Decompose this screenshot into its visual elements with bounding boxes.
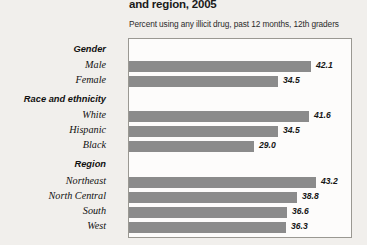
bar: [129, 141, 254, 152]
chart-subtitle: Percent using any illicit drug, past 12 …: [129, 19, 339, 29]
bar-value-label: 34.5: [283, 125, 300, 135]
bar-value-label: 29.0: [259, 140, 276, 150]
bar-value-label: 43.2: [321, 176, 338, 186]
bar: [129, 76, 278, 87]
category-label: Black: [0, 139, 106, 150]
table-row: 36.3West: [129, 220, 351, 235]
chart-title: and region, 2005: [129, 0, 217, 10]
category-label: North Central: [0, 190, 106, 201]
group-row: Race and ethnicity: [129, 94, 351, 109]
bar-value-label: 36.6: [292, 206, 309, 216]
table-row: 41.6White: [129, 109, 351, 124]
table-row: 43.2Northeast: [129, 175, 351, 190]
category-label: Male: [0, 59, 106, 70]
table-row: 29.0Black: [129, 139, 351, 154]
group-row: Gender: [129, 44, 351, 59]
group-row: Region: [129, 159, 351, 174]
category-label: Female: [0, 74, 106, 85]
bar: [129, 111, 309, 122]
bar: [129, 222, 286, 233]
bar: [129, 192, 297, 203]
table-row: 34.5Female: [129, 74, 351, 89]
bar: [129, 207, 287, 218]
bar: [129, 126, 278, 137]
category-label: Hispanic: [0, 124, 106, 135]
table-row: 38.8North Central: [129, 190, 351, 205]
table-row: 34.5Hispanic: [129, 124, 351, 139]
bar-value-label: 42.1: [316, 60, 333, 70]
table-row: 36.6South: [129, 205, 351, 220]
bar: [129, 61, 311, 72]
group-heading: Race and ethnicity: [0, 94, 106, 104]
bar-value-label: 38.8: [302, 191, 319, 201]
category-label: Northeast: [0, 175, 106, 186]
plot-area: Gender42.1Male34.5FemaleRace and ethnici…: [129, 39, 351, 237]
bar-value-label: 41.6: [314, 110, 331, 120]
table-row: 42.1Male: [129, 59, 351, 74]
category-label: West: [0, 220, 106, 231]
group-heading: Gender: [0, 44, 106, 54]
bar-value-label: 36.3: [291, 221, 308, 231]
bar: [129, 177, 316, 188]
category-label: South: [0, 205, 106, 216]
category-label: White: [0, 109, 106, 120]
group-heading: Region: [0, 159, 106, 169]
bar-value-label: 34.5: [283, 75, 300, 85]
chart-page: and region, 2005 Percent using any illic…: [0, 0, 367, 245]
